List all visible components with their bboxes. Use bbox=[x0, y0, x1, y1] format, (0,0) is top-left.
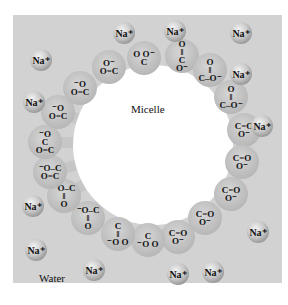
svg-text:Na⁺: Na⁺ bbox=[27, 245, 44, 256]
svg-text:Na⁺: Na⁺ bbox=[166, 26, 183, 37]
svg-text:O⁻: O⁻ bbox=[199, 217, 211, 227]
carboxylate-head: O‖C–O⁻ bbox=[193, 53, 227, 87]
water-label: Water bbox=[39, 272, 65, 284]
sodium-ion: Na⁺ bbox=[25, 239, 47, 261]
svg-text:Na⁺: Na⁺ bbox=[249, 227, 266, 238]
sodium-ion: Na⁺ bbox=[230, 22, 252, 44]
svg-text:O=C: O=C bbox=[49, 111, 68, 121]
svg-text:Na⁺: Na⁺ bbox=[253, 121, 270, 132]
carboxylate-head: O⁻O=C bbox=[92, 50, 126, 84]
svg-text:Na⁺: Na⁺ bbox=[24, 201, 41, 212]
svg-text:Na⁺: Na⁺ bbox=[232, 69, 249, 80]
sodium-ion: Na⁺ bbox=[30, 49, 52, 71]
micelle-interior bbox=[73, 65, 233, 225]
sodium-ion: Na⁺ bbox=[251, 115, 273, 137]
svg-text:O: O bbox=[60, 199, 67, 209]
carboxylate-head: C=OO⁻ bbox=[225, 145, 259, 179]
sodium-ion: Na⁺ bbox=[247, 221, 269, 243]
sodium-ion: Na⁺ bbox=[83, 259, 105, 281]
svg-text:Na⁺: Na⁺ bbox=[25, 97, 42, 108]
micelle-label: Micelle bbox=[131, 103, 165, 115]
svg-text:Na⁺: Na⁺ bbox=[115, 28, 132, 39]
svg-text:Na⁺: Na⁺ bbox=[204, 267, 221, 278]
svg-text:O=C: O=C bbox=[36, 145, 55, 155]
carboxylate-head: C=OO⁻ bbox=[214, 177, 248, 211]
sodium-ion: Na⁺ bbox=[167, 263, 189, 285]
svg-text:⁻O O: ⁻O O bbox=[107, 237, 128, 247]
carboxylate-head: ⁻O–CO=C bbox=[33, 155, 67, 189]
svg-text:O=C: O=C bbox=[100, 66, 119, 76]
sodium-ion: Na⁺ bbox=[164, 20, 186, 42]
carboxylate-head: C=OO⁻ bbox=[161, 220, 195, 254]
carboxylate-head: ⁻OO=C bbox=[63, 71, 97, 105]
sodium-ion: Na⁺ bbox=[22, 195, 44, 217]
svg-text:C: C bbox=[141, 57, 148, 67]
micelle-diagram: O‖CO⁻O‖C–O⁻O‖C–O⁻C=OO⁻C=OO⁻C=OO⁻C=OO⁻C=O… bbox=[0, 0, 288, 305]
svg-text:O⁻: O⁻ bbox=[236, 161, 248, 171]
svg-text:C–O⁻: C–O⁻ bbox=[220, 100, 243, 110]
svg-text:O: O bbox=[84, 221, 91, 231]
carboxylate-head: ⁻OCO=C bbox=[28, 125, 62, 159]
svg-text:Na⁺: Na⁺ bbox=[232, 28, 249, 39]
carboxylate-head: C‖⁻O O bbox=[101, 217, 135, 251]
sodium-ion: Na⁺ bbox=[230, 63, 252, 85]
svg-text:Na⁺: Na⁺ bbox=[169, 269, 186, 280]
carboxylate-head: O O⁻C bbox=[127, 41, 161, 75]
svg-text:Na⁺: Na⁺ bbox=[85, 265, 102, 276]
svg-text:O⁻: O⁻ bbox=[176, 63, 188, 73]
svg-text:O=C: O=C bbox=[71, 87, 90, 97]
svg-text:C–O⁻: C–O⁻ bbox=[199, 73, 222, 83]
carboxylate-head: O‖C–O⁻ bbox=[214, 80, 248, 114]
svg-text:O⁻: O⁻ bbox=[172, 236, 184, 246]
svg-text:Na⁺: Na⁺ bbox=[32, 55, 49, 66]
carboxylate-head: C⁻O O bbox=[131, 223, 165, 257]
micelle-core bbox=[73, 65, 233, 225]
svg-text:⁻O O: ⁻O O bbox=[137, 239, 158, 249]
sodium-ion: Na⁺ bbox=[113, 22, 135, 44]
svg-text:O=C: O=C bbox=[41, 171, 60, 181]
sodium-ion: Na⁺ bbox=[202, 261, 224, 283]
sodium-ion: Na⁺ bbox=[23, 91, 45, 113]
svg-text:O⁻: O⁻ bbox=[238, 129, 250, 139]
svg-text:O⁻: O⁻ bbox=[225, 193, 237, 203]
